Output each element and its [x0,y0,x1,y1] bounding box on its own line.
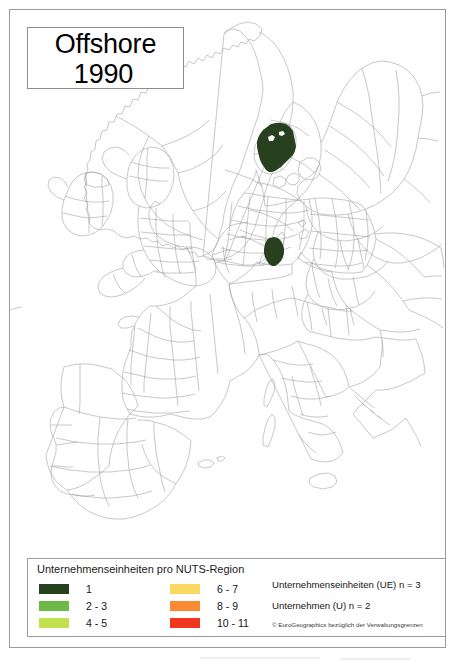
legend-item: 1 [39,580,107,597]
legend-swatch-4 [170,584,200,594]
map-frame: Offshore 1990 Unternehmenseinheiten pro … [9,9,446,648]
legend-swatch-3 [39,618,69,628]
legend-notes: Unternehmenseinheiten (UE) n = 3 Unterne… [272,579,444,629]
legend-item: 2 - 3 [39,597,107,614]
legend-label-1: 1 [86,583,92,595]
legend-label-5: 8 - 9 [217,600,238,612]
legend-column-left: 1 2 - 3 4 - 5 [39,580,107,631]
legend-swatch-5 [170,601,200,611]
legend-label-3: 4 - 5 [86,617,107,629]
scan-artifact [340,658,410,660]
map-title-line-1: Offshore [28,28,183,59]
page-root: Offshore 1990 Unternehmenseinheiten pro … [0,0,455,662]
legend-swatch-2 [39,601,69,611]
legend-label-6: 10 - 11 [217,617,249,629]
map-title-line-2: 1990 [28,59,183,89]
legend-copyright: © EuroGeographics bezüglich der Verwaltu… [272,621,444,629]
legend-note-ue: Unternehmenseinheiten (UE) n = 3 [272,579,444,591]
legend-label-4: 6 - 7 [217,583,238,595]
map-title-box: Offshore 1990 [27,27,184,89]
legend-item: 8 - 9 [170,597,249,614]
legend-note-u: Unternehmen (U) n = 2 [272,600,444,612]
legend-item: 6 - 7 [170,580,249,597]
legend-swatch-6 [170,618,200,628]
europe-map [10,10,445,647]
legend-item: 4 - 5 [39,614,107,631]
legend-item: 10 - 11 [170,614,249,631]
legend-swatch-1 [39,584,69,594]
scan-artifact [200,657,320,659]
legend-heading: Unternehmenseinheiten pro NUTS-Region [37,562,244,576]
legend-column-right: 6 - 7 8 - 9 10 - 11 [170,580,249,631]
legend-label-2: 2 - 3 [86,600,107,612]
map-legend: Unternehmenseinheiten pro NUTS-Region 1 … [27,558,446,637]
